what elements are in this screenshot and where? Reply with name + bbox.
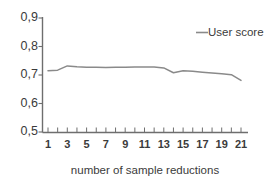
y-tick-label: 0,8 <box>21 39 38 53</box>
x-tick-label: 17 <box>196 138 208 150</box>
x-tick-label: 9 <box>122 138 128 150</box>
y-tick-label: 0,6 <box>21 96 38 110</box>
y-tick-label: 0,5 <box>21 124 38 138</box>
y-tick-label: 0,7 <box>21 67 38 81</box>
legend: User score <box>196 26 264 38</box>
y-axis-tick-labels: 0,9 0,8 0,7 0,6 0,5 <box>21 10 38 138</box>
x-tick-label: 3 <box>64 138 70 150</box>
x-tick-label: 13 <box>158 138 170 150</box>
x-axis-tick-labels: 13579111315171921 <box>45 138 247 150</box>
x-tick-label: 15 <box>177 138 189 150</box>
x-tick-label: 1 <box>45 138 51 150</box>
x-axis-ticks <box>48 128 241 133</box>
x-tick-label: 19 <box>216 138 228 150</box>
legend-label-user-score: User score <box>208 26 264 38</box>
x-tick-label: 11 <box>139 138 151 150</box>
series-line-user-score <box>48 66 241 81</box>
x-tick-label: 7 <box>103 138 109 150</box>
y-tick-label: 0,9 <box>21 10 38 24</box>
line-chart: 0,9 0,8 0,7 0,6 0,5 13579111315171921 Us… <box>0 0 272 189</box>
x-tick-label: 5 <box>84 138 90 150</box>
chart-canvas: 0,9 0,8 0,7 0,6 0,5 13579111315171921 Us… <box>0 0 272 189</box>
x-axis-title: number of sample reductions <box>71 164 220 176</box>
x-tick-label: 21 <box>235 138 247 150</box>
